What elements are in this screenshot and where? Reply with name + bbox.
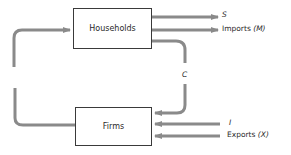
consumption-symbol: C (182, 70, 187, 79)
saving-label: S (222, 11, 227, 19)
consumption-arrow (152, 41, 185, 113)
circular-flow-diagram: Households Firms S Imports (M) C I Expor… (0, 0, 291, 155)
investment-label: I (229, 119, 231, 127)
investment-symbol: I (229, 118, 231, 127)
imports-label: Imports (M) (222, 25, 266, 33)
consumption-label: C (182, 71, 187, 79)
exports-text: Exports (227, 130, 255, 139)
saving-symbol: S (222, 10, 227, 19)
firms-box: Firms (75, 107, 152, 146)
households-box: Households (73, 8, 152, 49)
imports-symbol: (M) (253, 24, 265, 33)
firms-label: Firms (103, 122, 124, 131)
exports-symbol: (X) (258, 130, 269, 139)
imports-text: Imports (222, 24, 251, 33)
exports-label: Exports (X) (227, 131, 269, 139)
firms-to-households-arrow (14, 30, 75, 125)
households-label: Households (89, 24, 136, 33)
